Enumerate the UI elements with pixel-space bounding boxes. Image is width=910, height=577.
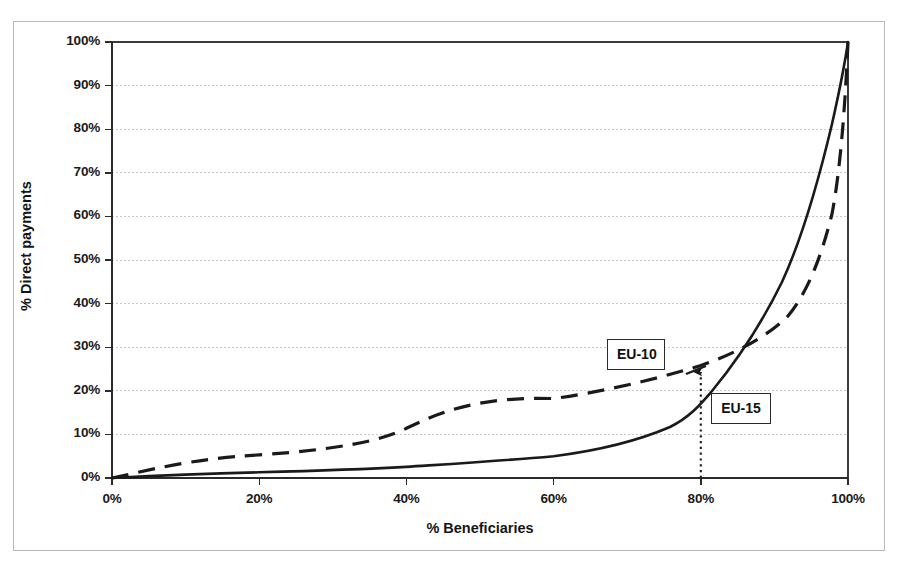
series-label-eu10: EU-10 [607,339,665,370]
figure-frame [13,21,885,551]
y-tick-100: 100% [44,33,100,48]
y-tick-0: 0% [44,469,100,484]
x-tick-20: 20% [224,491,294,506]
scan-noise-overlay [14,22,884,550]
x-tick-80: 80% [666,491,736,506]
y-tick-40: 40% [44,295,100,310]
x-tick-40: 40% [371,491,441,506]
x-tick-100: 100% [813,491,883,506]
y-tick-30: 30% [44,338,100,353]
y-tick-10: 10% [44,425,100,440]
y-axis-title: % Direct payments [18,156,34,336]
y-tick-60: 60% [44,207,100,222]
y-tick-20: 20% [44,382,100,397]
x-tick-60: 60% [519,491,589,506]
x-axis-title: % Beneficiaries [112,520,848,536]
y-tick-80: 80% [44,120,100,135]
y-tick-50: 50% [44,251,100,266]
series-label-eu15: EU-15 [711,393,771,424]
x-tick-0: 0% [77,491,147,506]
y-tick-70: 70% [44,164,100,179]
y-tick-90: 90% [44,77,100,92]
